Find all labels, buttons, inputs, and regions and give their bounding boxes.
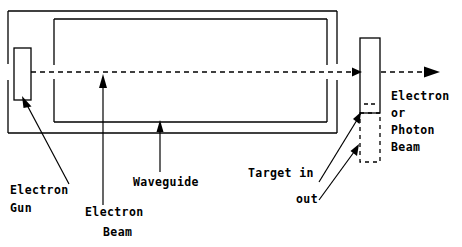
electron-gun-box (14, 48, 31, 100)
beam-axis (31, 68, 362, 77)
label-output-beam-line4: Beam (391, 140, 420, 154)
diagram-canvas: Electron Gun Electron Beam Waveguide Tar… (0, 0, 462, 247)
target-out-box (360, 113, 380, 162)
output-beam-axis (381, 67, 440, 78)
target-in-box (360, 38, 380, 113)
waveguide-cavity (54, 19, 327, 122)
electron-beam-leader (99, 74, 107, 205)
waveguide-leader (157, 120, 164, 172)
label-output-beam-line1: Electron (391, 89, 450, 103)
label-output-beam-line3: Photon (391, 123, 435, 137)
label-electron-gun-line2: Gun (10, 201, 32, 215)
label-electron-gun-line1: Electron (10, 183, 69, 197)
label-electron-beam-line1: Electron (85, 205, 144, 219)
label-target-in: Target in (248, 166, 314, 180)
label-target-out: out (296, 192, 318, 206)
label-electron-beam-line2: Beam (103, 225, 132, 239)
label-waveguide: Waveguide (133, 175, 199, 189)
label-output-beam-line2: or (391, 106, 406, 120)
linac-diagram: Electron Gun Electron Beam Waveguide Tar… (0, 0, 462, 247)
electron-gun-leader (22, 96, 69, 184)
